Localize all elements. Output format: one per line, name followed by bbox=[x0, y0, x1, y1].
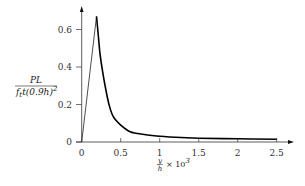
y-tick-label: 0.6 bbox=[58, 25, 73, 35]
x-axis-arrow-icon bbox=[288, 140, 294, 144]
x-label-multiplier: × 103 bbox=[166, 157, 190, 169]
x-label-numerator: y bbox=[157, 157, 163, 165]
y-tick-label: 0 bbox=[66, 137, 72, 147]
y-ticks: 00.20.40.6 bbox=[58, 25, 82, 148]
y-tick-label: 0.4 bbox=[58, 62, 73, 72]
y-tick-label: 0.2 bbox=[58, 100, 72, 110]
y-label-denominator: ftt(0.9h)2 bbox=[15, 85, 58, 99]
x-tick-label: 0.5 bbox=[114, 148, 129, 158]
curve bbox=[82, 16, 277, 142]
x-tick-label: 2.5 bbox=[270, 148, 285, 158]
x-ticks: 00.511.522.5 bbox=[79, 138, 284, 158]
x-tick-label: 0 bbox=[79, 148, 85, 158]
load-displacement-chart: 00.511.522.5 00.20.40.6 PL ftt(0.9h)2 y … bbox=[0, 0, 305, 186]
axes bbox=[76, 6, 294, 144]
x-label-denominator: h bbox=[158, 165, 163, 173]
curve-softening-branch bbox=[97, 16, 277, 139]
curve-rising-branch bbox=[82, 16, 97, 142]
y-label-numerator: PL bbox=[29, 75, 42, 85]
x-tick-label: 2 bbox=[235, 148, 241, 158]
y-axis-arrow-icon bbox=[80, 6, 84, 12]
y-axis-label: PL ftt(0.9h)2 bbox=[15, 75, 58, 99]
x-tick-label: 1.5 bbox=[192, 148, 207, 158]
x-axis-label: y h × 103 bbox=[157, 157, 190, 173]
